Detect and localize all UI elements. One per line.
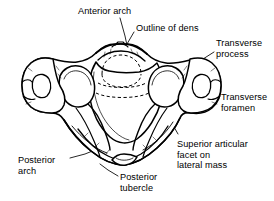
- leader-posterior-tubercle: [100, 164, 118, 176]
- label-posterior-arch: Posterior arch: [18, 155, 55, 176]
- left-transverse-foramen: [32, 74, 50, 97]
- anterior-arch-outer: [96, 44, 147, 54]
- anatomical-figure: Anterior arch Outline of dens Transverse…: [0, 0, 274, 201]
- label-transverse-process: Transverse process: [216, 38, 262, 59]
- label-anterior-arch: Anterior arch: [78, 6, 131, 17]
- label-transverse-foramen: Transverse foramen: [221, 92, 267, 113]
- label-outline-of-dens: Outline of dens: [136, 23, 199, 34]
- label-superior-articular-facet: Superior articular facet on lateral mass: [177, 139, 248, 171]
- right-transverse-foramen: [192, 74, 210, 97]
- label-posterior-tubercle: Posterior tubercle: [120, 172, 157, 193]
